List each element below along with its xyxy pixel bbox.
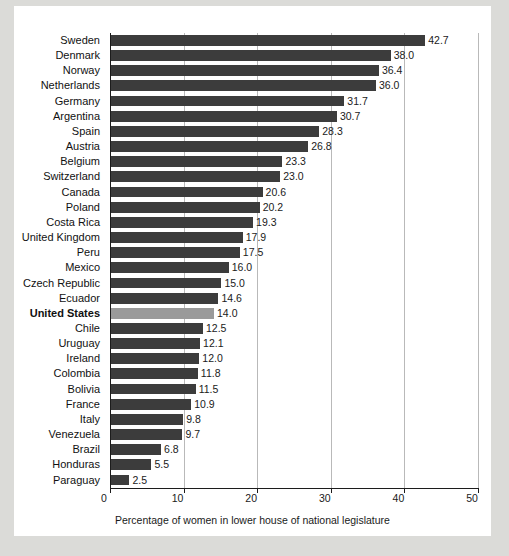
bar bbox=[111, 96, 344, 107]
bar bbox=[111, 171, 280, 182]
x-axis-title: Percentage of women in lower house of na… bbox=[14, 514, 491, 526]
x-axis-tick-label: 40 bbox=[393, 492, 405, 504]
category-label: Ecuador bbox=[14, 291, 104, 306]
bar-value-label: 30.7 bbox=[340, 109, 360, 124]
bar-row: 42.7 bbox=[110, 33, 478, 48]
x-axis-tick-label: 20 bbox=[245, 492, 257, 504]
x-axis-tick-label: 30 bbox=[319, 492, 331, 504]
bar-row: 16.0 bbox=[110, 260, 478, 275]
bar-row: 9.7 bbox=[110, 427, 478, 442]
category-label: Peru bbox=[14, 245, 104, 260]
bar-row: 12.1 bbox=[110, 336, 478, 351]
bar-value-label: 17.5 bbox=[243, 245, 263, 260]
bar-value-label: 12.5 bbox=[206, 321, 226, 336]
bar-row: 36.0 bbox=[110, 78, 478, 93]
category-label: Germany bbox=[14, 94, 104, 109]
bar bbox=[111, 111, 337, 122]
bar-row: 10.9 bbox=[110, 397, 478, 412]
bar-row: 5.5 bbox=[110, 457, 478, 472]
category-label: Paraguay bbox=[14, 473, 104, 488]
bar bbox=[111, 293, 218, 304]
bar-row: 36.4 bbox=[110, 63, 478, 78]
bar-row: 17.5 bbox=[110, 245, 478, 260]
bar-value-label: 15.0 bbox=[224, 276, 244, 291]
category-label: Chile bbox=[14, 321, 104, 336]
category-label: France bbox=[14, 397, 104, 412]
bar bbox=[111, 475, 129, 486]
category-label: Bolivia bbox=[14, 382, 104, 397]
bar-value-label: 36.0 bbox=[379, 78, 399, 93]
x-axis-tick-label: 10 bbox=[172, 492, 184, 504]
bar-row: 2.5 bbox=[110, 473, 478, 488]
bar-row: 14.0 bbox=[110, 306, 478, 321]
bar bbox=[111, 80, 376, 91]
bar bbox=[111, 368, 198, 379]
bar bbox=[111, 50, 391, 61]
bar-value-label: 6.8 bbox=[164, 442, 179, 457]
bar bbox=[111, 247, 240, 258]
category-label: Ireland bbox=[14, 351, 104, 366]
x-axis-line bbox=[110, 488, 479, 489]
bar bbox=[111, 278, 221, 289]
bar-row: 26.8 bbox=[110, 139, 478, 154]
category-label: Netherlands bbox=[14, 78, 104, 93]
category-label: United States bbox=[14, 306, 104, 321]
bar-row: 17.9 bbox=[110, 230, 478, 245]
bar-row: 31.7 bbox=[110, 94, 478, 109]
bar bbox=[111, 65, 379, 76]
bar-row: 23.3 bbox=[110, 154, 478, 169]
bar bbox=[111, 384, 196, 395]
bar-row: 11.8 bbox=[110, 366, 478, 381]
category-label: Honduras bbox=[14, 457, 104, 472]
bar bbox=[111, 187, 263, 198]
bar bbox=[111, 459, 151, 470]
bar bbox=[111, 353, 199, 364]
bar-row: 6.8 bbox=[110, 442, 478, 457]
bar-row: 20.2 bbox=[110, 200, 478, 215]
bar-row: 11.5 bbox=[110, 382, 478, 397]
bar-value-label: 23.3 bbox=[285, 154, 305, 169]
category-label: Switzerland bbox=[14, 169, 104, 184]
category-label: Spain bbox=[14, 124, 104, 139]
bar bbox=[111, 156, 282, 167]
x-axis-tick bbox=[110, 488, 111, 493]
bar-value-label: 19.3 bbox=[256, 215, 276, 230]
category-label: Sweden bbox=[14, 33, 104, 48]
bar-value-label: 20.6 bbox=[266, 185, 286, 200]
category-label: Poland bbox=[14, 200, 104, 215]
bar-value-label: 12.1 bbox=[203, 336, 223, 351]
category-label: Brazil bbox=[14, 442, 104, 457]
bar bbox=[111, 126, 319, 137]
category-label: Venezuela bbox=[14, 427, 104, 442]
bar bbox=[111, 338, 200, 349]
bar-value-label: 11.5 bbox=[199, 382, 219, 397]
bar-value-label: 11.8 bbox=[201, 366, 221, 381]
bar-value-label: 14.6 bbox=[221, 291, 241, 306]
bar-value-label: 42.7 bbox=[428, 33, 448, 48]
category-label: Argentina bbox=[14, 109, 104, 124]
bar-value-label: 12.0 bbox=[202, 351, 222, 366]
category-label: Italy bbox=[14, 412, 104, 427]
bar bbox=[111, 444, 161, 455]
category-label: Czech Republic bbox=[14, 276, 104, 291]
bar bbox=[111, 217, 253, 228]
bar-value-label: 31.7 bbox=[347, 94, 367, 109]
bar-value-label: 5.5 bbox=[154, 457, 169, 472]
bar bbox=[111, 429, 182, 440]
bar bbox=[111, 141, 308, 152]
plot-area: 42.738.036.436.031.730.728.326.823.323.0… bbox=[110, 33, 478, 488]
bar bbox=[111, 414, 183, 425]
category-label: Mexico bbox=[14, 260, 104, 275]
bar-value-label: 23.0 bbox=[283, 169, 303, 184]
bar-row: 14.6 bbox=[110, 291, 478, 306]
bar-rows: 42.738.036.436.031.730.728.326.823.323.0… bbox=[110, 33, 478, 488]
category-label: United Kingdom bbox=[14, 230, 104, 245]
bar-value-label: 28.3 bbox=[322, 124, 342, 139]
category-label: Norway bbox=[14, 63, 104, 78]
bar bbox=[111, 262, 229, 273]
bar-row: 30.7 bbox=[110, 109, 478, 124]
bar bbox=[111, 308, 214, 319]
bar-value-label: 14.0 bbox=[217, 306, 237, 321]
category-label: Belgium bbox=[14, 154, 104, 169]
bar-value-label: 36.4 bbox=[382, 63, 402, 78]
